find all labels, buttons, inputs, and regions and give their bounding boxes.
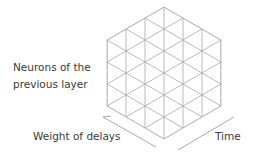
lattice-diagonal-line xyxy=(67,145,256,156)
lattice-diagonal-line xyxy=(67,0,256,107)
delays-label: Weight of delays xyxy=(33,130,121,142)
lattice-diagonal-line xyxy=(67,79,256,156)
delay-lattice-diagram: Neurons of the previous layer Weight of … xyxy=(0,0,256,156)
lattice-diagonal-line xyxy=(67,0,256,85)
time-label: Time xyxy=(214,130,241,142)
lattice-diagonal-line xyxy=(67,0,256,45)
arrowhead xyxy=(103,116,111,117)
lattice-diagonal-line xyxy=(67,0,256,41)
lattice-diagonal-line xyxy=(67,0,256,67)
lattice-diagonal-line xyxy=(67,149,256,156)
lattice-diagonal-line xyxy=(67,0,256,89)
lattice-diagonal-line xyxy=(67,0,256,19)
lattice-diagonal-line xyxy=(67,0,256,63)
neurons-label-line2: previous layer xyxy=(13,78,88,90)
neurons-label-line1: Neurons of the xyxy=(13,61,91,73)
lattice-diagonal-line xyxy=(67,0,256,23)
lattice-diagonal-line xyxy=(67,0,256,1)
lattice-diagonal-line xyxy=(67,0,256,111)
lattice-diagonal-line xyxy=(67,101,256,156)
